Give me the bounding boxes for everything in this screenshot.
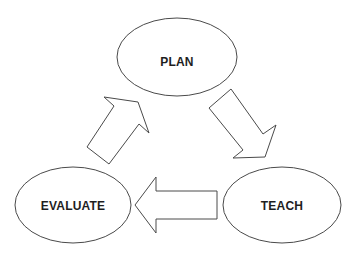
- diagram-canvas: [0, 0, 353, 257]
- teaching-cycle-diagram: PLAN TEACH EVALUATE: [0, 0, 353, 257]
- teach-node-label: TEACH: [261, 199, 303, 213]
- plan-node-label: PLAN: [160, 55, 193, 69]
- arrow-teach-to-evaluate-icon: [135, 177, 217, 233]
- arrow-evaluate-to-plan-icon: [87, 97, 149, 164]
- arrow-plan-to-teach-icon: [209, 89, 276, 158]
- evaluate-node-label: EVALUATE: [41, 199, 106, 213]
